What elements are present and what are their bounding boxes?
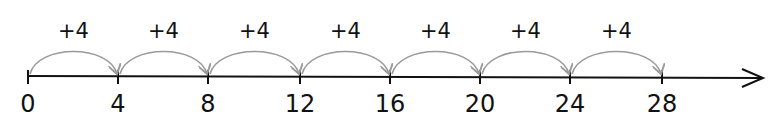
tick-label: 8	[200, 90, 215, 118]
jump-arc	[482, 52, 569, 75]
jump-arc	[302, 52, 389, 75]
jump-arc	[572, 52, 661, 75]
jump-label: +4	[148, 19, 179, 43]
tick-label: 4	[110, 90, 125, 118]
jump-arc	[392, 52, 479, 75]
tick-label: 28	[647, 90, 678, 118]
tick-label: 20	[465, 90, 496, 118]
jump-label: +4	[239, 19, 270, 43]
jump-label: +4	[58, 19, 89, 43]
axis-line	[28, 76, 763, 78]
number-line-diagram: 0481216202428+4+4+4+4+4+4+4	[0, 0, 772, 129]
tick-label: 0	[20, 90, 35, 118]
tick-label: 16	[375, 90, 406, 118]
jump-arc	[210, 52, 299, 75]
jump-arc	[30, 52, 117, 75]
jump-label: +4	[510, 19, 541, 43]
jump-label: +4	[601, 19, 632, 43]
jump-arc	[120, 52, 207, 75]
jump-label: +4	[420, 19, 451, 43]
tick-label: 12	[285, 90, 316, 118]
jump-label: +4	[330, 19, 361, 43]
tick-label: 24	[555, 90, 586, 118]
